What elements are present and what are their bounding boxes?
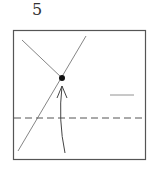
fold-arrow	[61, 86, 65, 153]
crease-line-diagonal	[18, 36, 86, 151]
origami-diagram	[0, 0, 151, 173]
crease-line-left	[22, 40, 62, 78]
target-dot	[59, 75, 65, 81]
